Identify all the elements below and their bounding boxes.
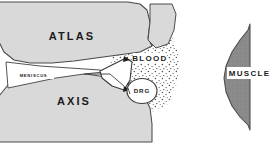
label-muscle: MUSCLE [229, 69, 271, 78]
label-drg: DRG [134, 87, 151, 94]
anatomical-diagram-svg: ATLAS AXIS MENISCUS BLOOD DRG MUSCLE [0, 0, 272, 145]
figure-root: ATLAS AXIS MENISCUS BLOOD DRG MUSCLE [0, 0, 272, 145]
label-axis: AXIS [57, 95, 91, 107]
label-blood: BLOOD [132, 54, 167, 63]
label-atlas: ATLAS [49, 30, 95, 42]
label-meniscus: MENISCUS [20, 73, 48, 78]
